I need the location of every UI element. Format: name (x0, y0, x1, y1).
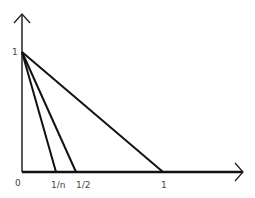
line-to-1 (22, 52, 163, 172)
y-label-1: 1 (12, 47, 18, 57)
line-to-half (22, 52, 76, 172)
x-label-origin: 0 (15, 178, 21, 188)
line-to-1-over-n (22, 52, 56, 172)
x-label-1-over-n: 1/n (51, 180, 65, 190)
x-label-1: 1 (161, 180, 167, 190)
diagram-canvas: 1 0 1/n 1/2 1 (0, 0, 255, 198)
x-label-half: 1/2 (76, 180, 90, 190)
